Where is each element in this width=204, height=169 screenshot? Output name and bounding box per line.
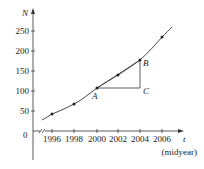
- y-tick-200: 200: [16, 46, 30, 56]
- x-tick-2000: 2000: [88, 134, 107, 144]
- y-tick-250: 250: [16, 26, 30, 36]
- data-point-2006: [161, 36, 164, 39]
- y-axis: 50 100 150 200 250 N 0: [16, 8, 36, 160]
- point-label-c: C: [143, 86, 150, 96]
- y-tick-50: 50: [20, 106, 30, 116]
- y-axis-label: N: [21, 8, 29, 18]
- chart-canvas: 50 100 150 200 250 N 0 1996 1998 2000 20…: [0, 0, 204, 169]
- x-tick-1998: 1998: [65, 134, 84, 144]
- x-tick-2002: 2002: [109, 134, 127, 144]
- data-point-2000: [96, 87, 99, 90]
- x-tick-1996: 1996: [43, 134, 62, 144]
- data-point-1996: [51, 113, 54, 116]
- x-axis-label: t: [183, 134, 186, 144]
- y-tick-150: 150: [16, 66, 30, 76]
- x-axis-arrow-icon: [178, 129, 184, 133]
- point-label-a: A: [91, 91, 98, 101]
- data-point-2004: [139, 59, 142, 62]
- x-tick-2006: 2006: [153, 134, 172, 144]
- data-points: [51, 36, 164, 116]
- y-axis-arrow-icon: [31, 8, 35, 14]
- x-tick-2004: 2004: [131, 134, 150, 144]
- data-point-2002: [117, 74, 120, 77]
- origin-label: 0: [23, 130, 28, 140]
- x-axis: 1996 1998 2000 2002 2004 2006 t (midyear…: [33, 129, 197, 157]
- y-tick-100: 100: [16, 86, 30, 96]
- x-axis-note: (midyear): [162, 147, 197, 157]
- data-point-1998: [73, 103, 76, 106]
- point-label-b: B: [143, 58, 149, 68]
- data-curve: [42, 27, 172, 120]
